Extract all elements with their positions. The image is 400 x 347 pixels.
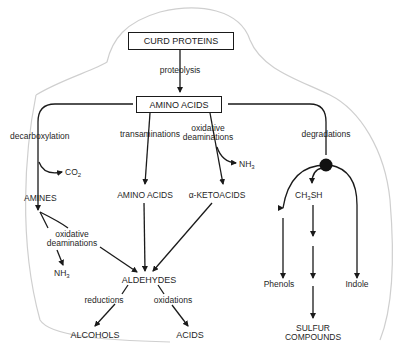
node-phenols: Phenols <box>264 280 295 289</box>
degradation-junction <box>320 159 333 172</box>
node-alcohols: ALCOHOLS <box>70 331 119 340</box>
label-line: deaminations <box>183 132 234 142</box>
product-co2: CO2 <box>65 168 81 177</box>
process-proteolysis: proteolysis <box>160 66 201 75</box>
node-indole: Indole <box>345 280 368 289</box>
node-ketoacids: α-KETOACIDS <box>189 191 246 200</box>
node-aldehydes: ALDEHYDES <box>122 276 177 285</box>
node-sulfur-compounds: SULFUR COMPOUNDS <box>285 324 341 341</box>
nh3-subscript: 3 <box>251 164 254 170</box>
nh3-subscript: 3 <box>66 273 69 279</box>
node-amino-acids-top: AMINO ACIDS <box>136 96 222 113</box>
product-nh3-top: NH3 <box>239 160 255 169</box>
label-line: COMPOUNDS <box>285 332 341 342</box>
nh3-text: NH <box>239 159 251 169</box>
process-oxidative-deaminations-left: oxidative deaminations <box>47 230 98 248</box>
process-oxidations: oxidations <box>154 296 192 305</box>
node-amino-acids-mid: AMINO ACIDS <box>117 191 173 200</box>
node-curd-proteins: CURD PROTEINS <box>128 32 234 50</box>
co2-text: CO <box>65 167 78 177</box>
label-line: deaminations <box>47 238 98 248</box>
process-degradations: degradations <box>301 130 350 139</box>
process-transaminations: transaminations <box>120 130 180 139</box>
ch3sh-text: CH <box>295 190 307 200</box>
ch3sh-text-end: SH <box>311 190 323 200</box>
diagram-lines <box>0 0 400 347</box>
node-ch3sh: CH3SH <box>295 191 322 200</box>
process-decarboxylation: decarboxylation <box>10 132 70 141</box>
process-oxidative-deaminations-top: oxidative deaminations <box>183 124 234 142</box>
nh3-text: NH <box>54 268 66 278</box>
co2-subscript: 2 <box>78 172 81 178</box>
node-amines: AMINES <box>24 194 57 203</box>
product-nh3-left: NH3 <box>54 269 70 278</box>
node-acids: ACIDS <box>176 331 204 340</box>
process-reductions: reductions <box>84 296 123 305</box>
